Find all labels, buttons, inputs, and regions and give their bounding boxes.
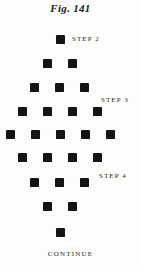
bead-square	[68, 59, 77, 68]
step-label-2: STEP 2	[72, 35, 100, 43]
continue-label: CONTINUE	[0, 250, 141, 258]
bead-square	[43, 153, 52, 162]
bead-square	[93, 153, 102, 162]
bead-square	[80, 178, 89, 187]
step-label-4: STEP 4	[99, 172, 127, 180]
bead-square	[18, 153, 27, 162]
bead-square	[31, 130, 40, 139]
step-label-3: STEP 3	[101, 96, 129, 104]
bead-square	[55, 83, 64, 92]
bead-square	[68, 202, 77, 211]
bead-square	[43, 59, 52, 68]
bead-square	[68, 153, 77, 162]
bead-square	[18, 107, 27, 116]
figure-page: Fig. 141 STEP 2 STEP 3 STEP 4 CONTINUE	[0, 0, 141, 271]
bead-square	[56, 130, 65, 139]
bead-square	[68, 107, 77, 116]
bead-square	[81, 130, 90, 139]
bead-square	[30, 83, 39, 92]
bead-square	[56, 35, 65, 44]
bead-square	[43, 202, 52, 211]
bead-square	[93, 107, 102, 116]
bead-square	[106, 130, 115, 139]
bead-square	[80, 83, 89, 92]
bead-square	[56, 228, 65, 237]
bead-square	[55, 178, 64, 187]
bead-diagram	[0, 0, 141, 271]
bead-square	[30, 178, 39, 187]
bead-square	[6, 130, 15, 139]
bead-square	[43, 107, 52, 116]
